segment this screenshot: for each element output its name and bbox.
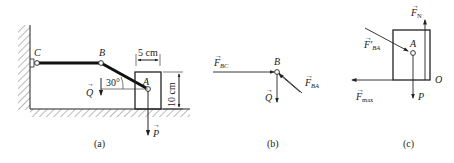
point-B-label-b: B — [274, 56, 280, 67]
point-B-label: B — [99, 47, 105, 58]
caption-a: (a) — [94, 138, 105, 150]
wall-hatch — [18, 25, 30, 110]
svg-text:→: → — [365, 34, 372, 42]
angle-label: 30° — [106, 77, 120, 88]
mechanics-diagram: 30° Q → P → C B A 5 cm 10 cm (a) B — [0, 0, 454, 163]
joint-A-c — [411, 51, 416, 56]
caption-b: (b) — [267, 138, 279, 150]
force-FBA-arrow — [279, 74, 300, 92]
panel-c: A O FN → F′BA → Fmax → P (c) — [352, 2, 442, 150]
force-Q-label: Q — [86, 87, 94, 98]
point-A-label-c: A — [409, 38, 417, 49]
caption-c: (c) — [403, 138, 414, 150]
svg-text:→: → — [412, 2, 419, 10]
svg-text:→: → — [266, 86, 273, 94]
width-dimension: 5 cm — [138, 47, 158, 58]
svg-text:→: → — [87, 80, 94, 88]
svg-text:→: → — [306, 72, 313, 80]
force-P-label: P — [152, 128, 159, 139]
svg-text:→: → — [357, 86, 364, 94]
panel-b: B FBC → FBA → Q → (b) — [213, 52, 319, 150]
joint-B — [99, 61, 104, 66]
point-A-label: A — [142, 76, 150, 87]
corner-O-label: O — [435, 74, 442, 85]
panel-a: 30° Q → P → C B A 5 cm 10 cm (a) — [18, 25, 190, 150]
point-C-label: C — [34, 47, 41, 58]
svg-text:→: → — [153, 121, 160, 129]
ground-hatch — [30, 109, 190, 117]
svg-text:→: → — [215, 52, 222, 60]
joint-B-b — [275, 70, 280, 75]
joint-C — [35, 61, 40, 66]
force-P-label-c: P — [417, 91, 424, 102]
height-dimension: 10 cm — [166, 82, 177, 107]
